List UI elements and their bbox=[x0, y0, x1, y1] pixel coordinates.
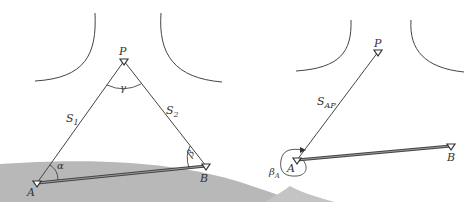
point-label-p: P bbox=[373, 37, 382, 50]
point-label-p: P bbox=[118, 45, 127, 58]
point-label-b: B bbox=[199, 172, 208, 185]
obstacle-curve-left bbox=[35, 13, 95, 81]
side-label-s2: S2 bbox=[166, 104, 179, 119]
side-label-s1: S1 bbox=[66, 112, 79, 127]
point-label-a: A bbox=[286, 162, 295, 175]
obstacle-curve-right bbox=[161, 13, 222, 82]
side-s2 bbox=[124, 61, 206, 166]
side-label-sap: SAP bbox=[317, 95, 336, 110]
angle-label-beta: β bbox=[184, 147, 197, 159]
ground-region-right bbox=[265, 186, 335, 202]
obstacle-curve-right bbox=[411, 20, 464, 72]
point-label-b: B bbox=[446, 151, 455, 164]
obstacle-curve-left bbox=[296, 20, 351, 71]
angle-label-alpha: α bbox=[57, 160, 64, 171]
side-sap bbox=[297, 52, 378, 160]
angle-label-gamma: γ bbox=[120, 82, 126, 93]
diagram-canvas: P A B S1 S2 γ α β P A B SAP βA bbox=[0, 0, 469, 202]
point-label-a: A bbox=[26, 186, 35, 199]
angle-label-beta-a: βA bbox=[268, 166, 280, 180]
right-figure: P A B SAP βA bbox=[268, 20, 464, 180]
